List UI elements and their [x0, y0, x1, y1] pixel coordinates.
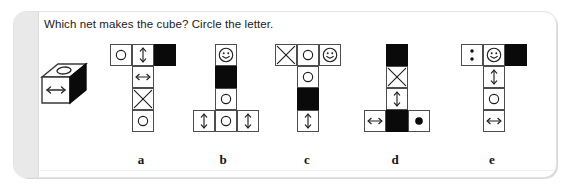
cross-icon	[276, 45, 296, 65]
vertical-double-arrow-icon	[194, 111, 214, 131]
net-cell-black	[386, 44, 408, 66]
net-cell-black	[215, 66, 237, 88]
option-letter-b[interactable]: b	[203, 152, 243, 168]
vertical-double-arrow-icon	[238, 111, 258, 131]
net-cell-circle	[110, 44, 132, 66]
circle-icon	[111, 45, 131, 65]
option-letter-e[interactable]: e	[472, 152, 512, 168]
circle-icon	[216, 89, 236, 109]
net-cell-horizontal-double-arrow	[364, 110, 386, 132]
horizontal-double-arrow-icon	[365, 111, 385, 131]
question-prompt: Which net makes the cube? Circle the let…	[44, 18, 273, 30]
net-cell-circle	[215, 110, 237, 132]
page-rule	[40, 170, 556, 171]
net-cell-vertical-double-arrow	[483, 66, 505, 88]
net-cell-circle	[215, 88, 237, 110]
filled-dot-icon	[409, 111, 429, 131]
vertical-double-arrow-icon	[387, 89, 407, 109]
worksheet-page: Which net makes the cube? Circle the let…	[0, 0, 582, 189]
net-cell-black	[297, 88, 319, 110]
net-cell-horizontal-double-arrow	[483, 110, 505, 132]
vertical-double-arrow-icon	[484, 67, 504, 87]
reference-cube	[38, 60, 94, 108]
net-cell-vertical-double-arrow	[386, 88, 408, 110]
net-cell-circle	[297, 66, 319, 88]
net-cell-vertical-double-arrow	[193, 110, 215, 132]
net-cell-circle	[132, 110, 154, 132]
option-letter-d[interactable]: d	[375, 152, 415, 168]
net-cell-vertical-double-arrow	[297, 110, 319, 132]
option-letter-a[interactable]: a	[121, 152, 161, 168]
net-cell-horizontal-double-arrow	[132, 66, 154, 88]
circle-icon	[484, 89, 504, 109]
net-cell-filled-dot	[408, 110, 430, 132]
smiley-icon	[216, 45, 236, 65]
two-dots-icon	[462, 45, 482, 65]
net-cell-black	[154, 44, 176, 66]
net-cell-black	[505, 44, 527, 66]
vertical-double-arrow-icon	[133, 45, 153, 65]
net-cell-circle	[483, 88, 505, 110]
net-cell-smiley	[319, 44, 341, 66]
option-letter-c[interactable]: c	[287, 152, 327, 168]
smiley-icon	[320, 45, 340, 65]
net-cell-cross	[386, 66, 408, 88]
cross-icon	[133, 89, 153, 109]
net-cell-cross	[132, 88, 154, 110]
circle-icon	[298, 67, 318, 87]
circle-icon	[133, 111, 153, 131]
net-cell-vertical-double-arrow	[237, 110, 259, 132]
net-cell-circle	[297, 44, 319, 66]
net-cell-two-dots	[461, 44, 483, 66]
horizontal-double-arrow-icon	[133, 67, 153, 87]
reference-cube-svg	[38, 60, 94, 108]
smiley-icon	[484, 45, 504, 65]
net-cell-smiley	[215, 44, 237, 66]
cross-icon	[387, 67, 407, 87]
net-cell-cross	[275, 44, 297, 66]
circle-icon	[298, 45, 318, 65]
horizontal-double-arrow-icon	[484, 111, 504, 131]
circle-icon	[216, 111, 236, 131]
card-spine	[14, 12, 39, 177]
net-cell-smiley	[483, 44, 505, 66]
net-cell-black	[386, 110, 408, 132]
net-cell-vertical-double-arrow	[132, 44, 154, 66]
vertical-double-arrow-icon	[298, 111, 318, 131]
